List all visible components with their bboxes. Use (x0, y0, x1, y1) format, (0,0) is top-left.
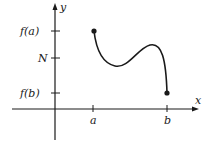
y-axis-arrow-icon (53, 3, 58, 10)
x-axis-label: x (195, 94, 202, 107)
curve-start-point (91, 28, 96, 33)
x-axis-arrow-icon (192, 107, 199, 112)
tick-label-a: a (90, 114, 97, 127)
tick-label-fb: f(b) (19, 87, 40, 100)
y-axis-label: y (59, 1, 67, 14)
tick-label-n: N (37, 52, 48, 65)
tick-label-b: b (164, 114, 171, 127)
function-curve (94, 31, 167, 93)
curve-end-point (164, 90, 169, 95)
function-graph: y x f(a) N f(b) a b (0, 0, 210, 147)
tick-label-fa: f(a) (19, 25, 39, 38)
